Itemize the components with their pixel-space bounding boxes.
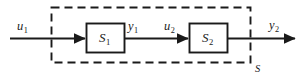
signal-label-y1-main: y	[128, 19, 134, 33]
block-label-s2-sub: 2	[209, 37, 213, 47]
block-label-s1: S1	[99, 31, 110, 44]
block-label-s2: S2	[202, 31, 213, 44]
signal-label-y1: y1	[128, 20, 138, 33]
signal-label-u1-sub: 1	[24, 26, 28, 35]
signal-label-y2-main: y	[269, 18, 275, 32]
block-label-s1-main: S	[99, 30, 106, 45]
signal-label-y2-sub: 2	[275, 25, 279, 34]
signal-label-u2-main: u	[164, 19, 170, 33]
diagram-canvas	[0, 0, 307, 79]
block-label-s1-sub: 1	[106, 37, 110, 47]
signal-label-u2-sub: 2	[171, 26, 175, 35]
block-label-s2-main: S	[202, 30, 209, 45]
signal-label-u2: u2	[164, 20, 174, 33]
block-diagram: u1 y1 u2 y2 S1 S2 S	[0, 0, 307, 79]
signal-label-y1-sub: 1	[134, 26, 138, 35]
system-enclosure-label: S	[255, 64, 260, 75]
signal-label-u1-main: u	[17, 19, 23, 33]
signal-label-u1: u1	[17, 20, 27, 33]
signal-label-y2: y2	[269, 19, 279, 32]
